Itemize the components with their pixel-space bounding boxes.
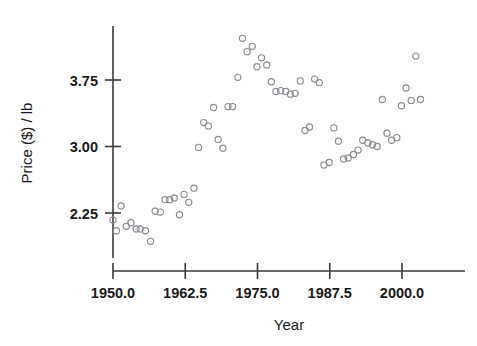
data-point [379, 96, 385, 102]
data-point [408, 97, 414, 103]
x-axis-title: Year [274, 316, 304, 333]
data-point [244, 49, 250, 55]
data-point [128, 220, 134, 226]
data-point [316, 80, 322, 86]
data-point [297, 78, 303, 84]
data-point [413, 53, 419, 59]
data-point [181, 191, 187, 197]
x-tick-label-group: 1950.01962.51975.01987.52000.0 [91, 285, 424, 301]
data-point [191, 185, 197, 191]
x-tick-label-1975.0: 1975.0 [235, 285, 279, 301]
data-point [113, 228, 119, 234]
data-point [417, 96, 423, 102]
data-point-group [110, 35, 424, 244]
data-point [215, 136, 221, 142]
data-point [220, 145, 226, 151]
data-point [254, 64, 260, 70]
data-point [258, 55, 264, 61]
x-tick-label-1962.5: 1962.5 [163, 285, 207, 301]
data-point [176, 212, 182, 218]
data-point [230, 104, 236, 110]
data-point [210, 104, 216, 110]
data-point [326, 159, 332, 165]
y-tick-label-3.75: 3.75 [70, 73, 98, 89]
data-point [147, 238, 153, 244]
data-point [205, 123, 211, 129]
data-point [306, 124, 312, 130]
data-point [118, 203, 124, 209]
x-tick-label-2000.0: 2000.0 [380, 285, 424, 301]
scatter-plot-figure: 2.253.003.75 1950.01962.51975.01987.5200… [0, 0, 477, 346]
data-point [398, 103, 404, 109]
data-point [264, 62, 270, 68]
data-point [355, 147, 361, 153]
data-point [331, 125, 337, 131]
y-axis-title: Price ($) / lb [18, 103, 35, 184]
plot-canvas: 2.253.003.75 1950.01962.51975.01987.5200… [0, 0, 477, 346]
data-point [186, 199, 192, 205]
x-tick-label-1950.0: 1950.0 [91, 285, 135, 301]
data-point [394, 135, 400, 141]
y-tick-label-3.00: 3.00 [70, 139, 98, 155]
data-point [335, 138, 341, 144]
y-tick-label-2.25: 2.25 [70, 206, 98, 222]
y-tick-label-group: 2.253.003.75 [70, 73, 98, 222]
data-point [403, 85, 409, 91]
data-point [195, 144, 201, 150]
data-point [268, 79, 274, 85]
data-point [384, 130, 390, 136]
data-point [249, 43, 255, 49]
data-point [239, 35, 245, 41]
data-point [235, 74, 241, 80]
x-tick-label-1987.5: 1987.5 [308, 285, 352, 301]
